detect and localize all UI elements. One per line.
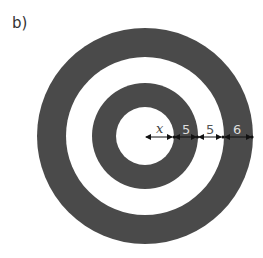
target-rings (37, 28, 253, 244)
dimension-label-5b: 5 (206, 122, 214, 137)
dimension-label-6: 6 (233, 122, 241, 137)
inner-white-disc (116, 107, 174, 165)
target-diagram: x 5 5 6 (0, 0, 263, 258)
dimension-label-5a: 5 (182, 122, 190, 137)
dimension-label-x: x (156, 121, 164, 136)
